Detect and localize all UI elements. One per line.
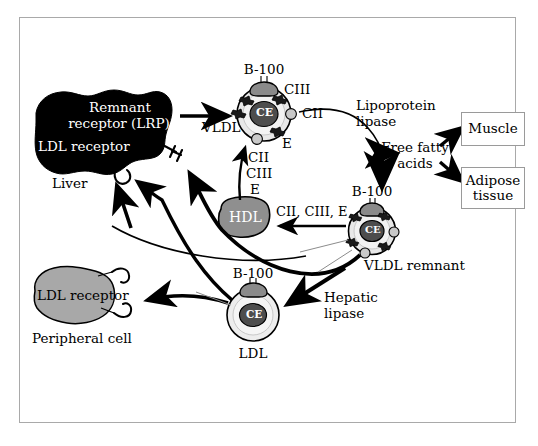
vldl-e-label: E (282, 136, 292, 151)
leader-line-remnant-2 (300, 240, 348, 252)
vldl-cii-label: CII (302, 106, 323, 121)
liver-label: Liver (52, 176, 87, 191)
transfer-hdl-to-vldl-line1: CII (248, 150, 269, 165)
lipoprotein-lipase-label-line1: Lipoprotein (356, 98, 436, 113)
vldl-b100-label: B-100 (222, 62, 306, 77)
muscle-box: Muscle (461, 112, 525, 146)
vldl-label: VLDL (202, 120, 241, 135)
muscle-label: Muscle (468, 121, 517, 136)
diagram-canvas: Remnant receptor (LRP) LDL receptor Live… (0, 0, 538, 446)
hdl-label: HDL (229, 210, 262, 225)
free-fatty-acids-label-line2: acids (380, 156, 450, 171)
arrow-ldl-uptake-liver (117, 186, 131, 228)
transfer-hdl-to-vldl-line2: CIII (246, 166, 272, 181)
vldl-core-label: CE (256, 107, 273, 119)
adipose-label-line2: tissue (473, 188, 513, 203)
hepatic-lipase-label-line1: Hepatic (324, 290, 378, 305)
adipose-tissue-box: Adipose tissue (461, 167, 525, 209)
arrow-remnant-to-liver (190, 174, 360, 274)
liver-ldl-receptor-label: LDL receptor (38, 139, 130, 154)
vldl-b100-apoprotein-icon (250, 76, 278, 96)
arrow-ldl-to-liver (138, 182, 232, 300)
transfer-remnant-to-hdl-label: CII, CIII, E (276, 205, 348, 219)
liver-remnant-receptor-icon (159, 143, 182, 161)
vldl-remnant-b100-label: B-100 (336, 184, 408, 199)
vldl-remnant-core-label: CE (365, 225, 381, 236)
arrow-hdl-to-vldl (239, 148, 245, 200)
ldl-core-label: CE (246, 309, 262, 320)
peripheral-cell-ldl-receptor-label: LDL receptor (37, 288, 129, 303)
vldl-remnant-label: VLDL remnant (364, 258, 465, 273)
ldl-b100-label: B-100 (216, 266, 290, 281)
ldl-label: LDL (231, 346, 275, 361)
leader-line-hdl-lower (112, 226, 306, 260)
peripheral-cell-label: Peripheral cell (32, 331, 132, 346)
adipose-label-line1: Adipose (466, 173, 520, 188)
liver-remnant-receptor-label-line2: receptor (LRP) (56, 116, 182, 131)
hepatic-lipase-label-line2: lipase (324, 306, 364, 321)
vldl-ciii-label: CIII (284, 82, 310, 97)
free-fatty-acids-label-line1: Free fatty (380, 140, 450, 155)
transfer-hdl-to-vldl-line3: E (250, 182, 260, 197)
liver-remnant-receptor-label-line1: Remnant (64, 100, 176, 115)
lipoprotein-lipase-label-line2: lipase (356, 114, 396, 129)
